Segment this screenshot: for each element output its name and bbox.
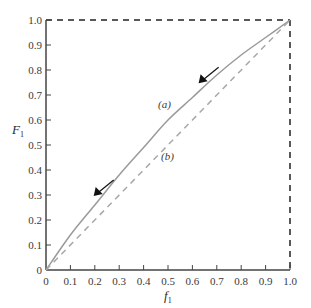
curve-label-b: (b) xyxy=(161,150,174,163)
x-tick-label: 0.8 xyxy=(234,275,248,287)
arrow-head-icon xyxy=(94,187,103,196)
y-axis-title: F1 xyxy=(11,122,24,139)
direction-arrows xyxy=(94,67,219,196)
x-axis-title: f1 xyxy=(164,288,172,305)
x-tick-label: 0.4 xyxy=(137,275,151,287)
curve-label-a: (a) xyxy=(158,98,171,111)
copolymer-composition-chart: 00.10.20.30.40.50.60.70.80.91.000.10.20.… xyxy=(0,0,311,308)
x-tick-label: 0.7 xyxy=(210,275,224,287)
x-tick-label: 0.5 xyxy=(161,275,175,287)
x-tick-label: 0.6 xyxy=(186,275,200,287)
y-tick-label: 1.0 xyxy=(28,14,42,26)
y-tick-label: 0 xyxy=(37,264,43,276)
y-tick-label: 0.7 xyxy=(28,89,42,101)
y-tick-label: 0.6 xyxy=(28,114,42,126)
x-tick-label: 0.2 xyxy=(88,275,102,287)
y-tick-label: 0.3 xyxy=(28,189,42,201)
arrow-icon xyxy=(203,67,219,80)
y-tick-label: 0.9 xyxy=(28,39,42,51)
boundary-lines xyxy=(46,20,290,270)
y-tick-label: 0.8 xyxy=(28,64,42,76)
arrow-head-icon xyxy=(199,74,208,83)
y-tick-label: 0.5 xyxy=(28,139,42,151)
x-tick-label: 0.9 xyxy=(259,275,273,287)
series-line-b xyxy=(46,20,290,270)
x-tick-label: 0.1 xyxy=(64,275,78,287)
data-series xyxy=(46,20,290,270)
x-tick-label: 1.0 xyxy=(283,275,297,287)
x-tick-label: 0 xyxy=(43,275,49,287)
x-tick-label: 0.3 xyxy=(112,275,126,287)
y-tick-label: 0.4 xyxy=(28,164,42,176)
y-tick-label: 0.1 xyxy=(28,239,42,251)
axes xyxy=(46,20,290,270)
series-line-a xyxy=(46,20,290,270)
y-tick-label: 0.2 xyxy=(28,214,42,226)
